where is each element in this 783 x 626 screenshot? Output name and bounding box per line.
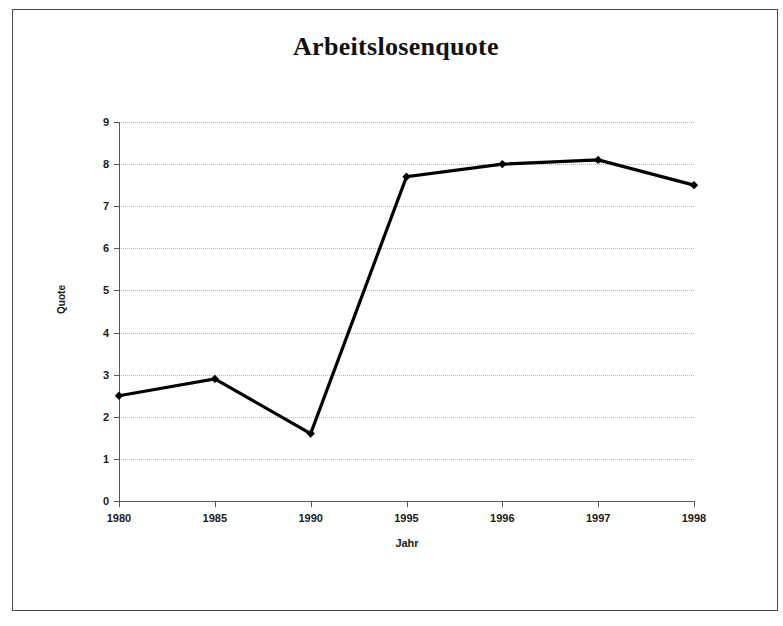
chart-frame: Arbeitslosenquote Quote Jahr 01234567891…	[12, 9, 778, 611]
y-axis-tick-label: 0	[91, 495, 109, 507]
data-point-marker	[498, 160, 506, 168]
y-axis-tick-label: 8	[91, 158, 109, 170]
y-axis-tick	[114, 122, 120, 123]
x-axis-tick-label: 1997	[563, 512, 633, 524]
series-line	[119, 160, 694, 434]
y-axis-tick	[114, 206, 120, 207]
data-point-marker	[402, 173, 410, 181]
data-point-marker	[115, 392, 123, 400]
x-axis-tick-label: 1980	[84, 512, 154, 524]
x-axis-tick-label: 1985	[180, 512, 250, 524]
x-axis-tick	[215, 501, 216, 507]
x-axis-tick-label: 1995	[372, 512, 442, 524]
x-axis-tick	[311, 501, 312, 507]
data-point-marker	[690, 181, 698, 189]
data-point-marker	[594, 156, 602, 164]
x-axis-tick-label: 1990	[276, 512, 346, 524]
y-axis-tick	[114, 290, 120, 291]
x-axis-tick	[694, 501, 695, 507]
y-axis-tick	[114, 333, 120, 334]
x-axis-tick	[407, 501, 408, 507]
y-axis-tick	[114, 375, 120, 376]
y-axis-tick-label: 2	[91, 411, 109, 423]
y-axis-tick-label: 7	[91, 200, 109, 212]
x-axis-tick	[119, 501, 120, 507]
y-axis-tick-label: 4	[91, 327, 109, 339]
y-axis-tick-label: 1	[91, 453, 109, 465]
x-axis-tick	[598, 501, 599, 507]
y-axis-tick-label: 6	[91, 242, 109, 254]
x-axis-tick	[502, 501, 503, 507]
y-axis-tick	[114, 459, 120, 460]
y-axis-tick	[114, 417, 120, 418]
y-axis-tick	[114, 164, 120, 165]
y-axis-tick	[114, 248, 120, 249]
x-axis-tick-label: 1998	[659, 512, 729, 524]
y-axis-tick-label: 3	[91, 369, 109, 381]
y-axis-tick-label: 9	[91, 116, 109, 128]
x-axis-tick-label: 1996	[467, 512, 537, 524]
y-axis-tick-label: 5	[91, 284, 109, 296]
